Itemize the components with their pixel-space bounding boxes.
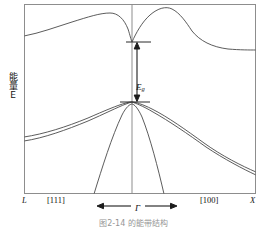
y-axis-label: 能量E [3, 72, 17, 100]
figure-caption: 图2-14 的能带结构 [0, 217, 267, 228]
bandgap-label-subscript: g [142, 85, 145, 92]
x-tick-label-111: [111] [47, 195, 65, 205]
bandgap-label: Eg [136, 82, 145, 92]
x-tick-label-x: X [250, 195, 255, 205]
x-tick-label-100: [100] [200, 195, 218, 205]
x-tick-label-l: L [22, 195, 27, 205]
plot-frame [24, 4, 256, 194]
gamma-point-label: Γ [135, 203, 140, 213]
band-structure-figure: 能量E [0, 0, 267, 228]
